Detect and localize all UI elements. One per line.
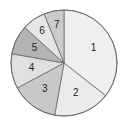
pie-chart: 1234567	[0, 0, 127, 121]
pie-label-1: 1	[91, 42, 97, 53]
pie-label-3: 3	[42, 83, 48, 94]
pie-label-2: 2	[73, 87, 79, 98]
pie-label-5: 5	[32, 42, 38, 53]
pie-slices	[11, 10, 117, 116]
pie-label-6: 6	[39, 25, 45, 36]
pie-label-4: 4	[29, 62, 35, 73]
pie-label-7: 7	[54, 19, 60, 30]
